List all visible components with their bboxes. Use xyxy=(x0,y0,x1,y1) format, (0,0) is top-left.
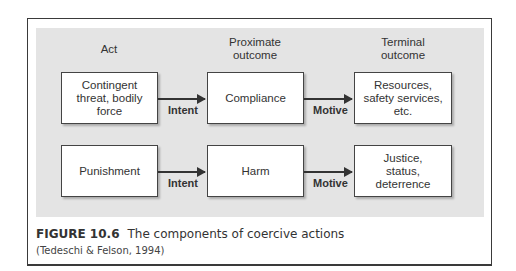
column-header-proximate: Proximate outcome xyxy=(200,36,310,62)
caption-text: The components of coercive actions xyxy=(127,227,344,241)
box-proximate-harm: Harm xyxy=(207,145,304,197)
label-intent-1: Intent xyxy=(168,104,198,116)
caption-label: FIGURE 10.6 xyxy=(36,227,119,241)
box-act-punishment: Punishment xyxy=(61,145,158,197)
label-intent-2: Intent xyxy=(168,177,198,189)
box-text: Harm xyxy=(241,165,269,178)
box-text: Resources, safety services, etc. xyxy=(363,79,443,118)
arrow-intent-1 xyxy=(158,98,205,100)
box-proximate-compliance: Compliance xyxy=(207,72,304,124)
box-text: Punishment xyxy=(79,165,140,178)
column-header-act: Act xyxy=(54,43,164,56)
arrow-motive-1 xyxy=(304,98,352,100)
box-text: Compliance xyxy=(225,92,286,105)
box-act-threat: Contingent threat, bodily force xyxy=(61,72,158,124)
box-terminal-resources: Resources, safety services, etc. xyxy=(354,72,452,124)
box-text: Justice, status, deterrence xyxy=(369,152,437,191)
figure-source: (Tedeschi & Felson, 1994) xyxy=(36,245,164,256)
box-text: Contingent threat, bodily force xyxy=(68,79,151,118)
column-header-terminal: Terminal outcome xyxy=(348,36,458,62)
label-motive-1: Motive xyxy=(313,104,348,116)
box-terminal-justice: Justice, status, deterrence xyxy=(354,145,452,197)
arrow-intent-2 xyxy=(158,171,205,173)
arrow-motive-2 xyxy=(304,171,352,173)
label-motive-2: Motive xyxy=(313,177,348,189)
figure-caption: FIGURE 10.6The components of coercive ac… xyxy=(36,227,344,241)
